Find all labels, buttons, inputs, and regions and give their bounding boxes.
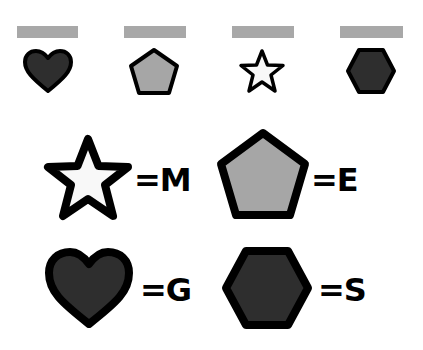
key-heart-icon bbox=[44, 247, 134, 329]
star-icon bbox=[238, 48, 286, 94]
key-label-m: =M bbox=[134, 164, 191, 196]
answer-blank-3[interactable] bbox=[232, 26, 294, 38]
answer-blank-4[interactable] bbox=[340, 26, 403, 38]
key-label-e: =E bbox=[311, 164, 358, 196]
answer-blank-1[interactable] bbox=[17, 26, 78, 38]
heart-icon bbox=[22, 48, 74, 94]
key-pentagon-icon bbox=[216, 128, 310, 220]
pentagon-icon bbox=[128, 47, 180, 96]
answer-blank-2[interactable] bbox=[124, 26, 186, 38]
key-hexagon-icon bbox=[221, 246, 313, 330]
key-star-icon bbox=[43, 133, 133, 223]
key-label-g: =G bbox=[140, 274, 191, 306]
hexagon-icon bbox=[345, 47, 397, 95]
key-label-s: =S bbox=[318, 274, 366, 306]
